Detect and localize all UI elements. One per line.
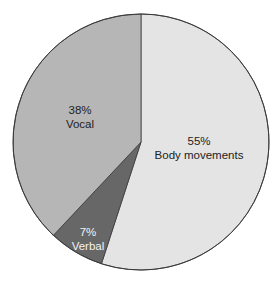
label-verbal-pct: 7% xyxy=(80,226,97,238)
label-vocal-pct: 38% xyxy=(68,104,91,116)
label-body-movements-name: Body movements xyxy=(155,149,244,161)
label-body-movements-pct: 55% xyxy=(187,135,210,147)
pie-chart: 55% Body movements 38% Vocal 7% Verbal xyxy=(0,0,274,285)
pie-slices xyxy=(13,14,269,270)
label-verbal-name: Verbal xyxy=(72,240,105,252)
label-vocal-name: Vocal xyxy=(66,118,94,130)
